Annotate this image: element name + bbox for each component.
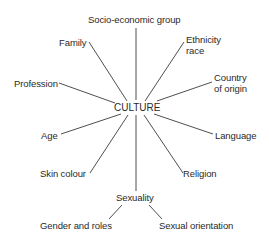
node-socio-economic-group: Socio-economic group — [88, 14, 181, 25]
edge-family — [89, 42, 127, 101]
node-profession: Profession — [14, 78, 58, 89]
edge-language — [154, 114, 213, 134]
edge-orientation — [149, 205, 162, 219]
node-sexuality: Sexuality — [116, 192, 154, 203]
edge-age — [61, 114, 121, 134]
node-gender-and-roles: Gender and roles — [40, 220, 112, 231]
node-ethnicity-race: Ethnicity race — [186, 34, 221, 56]
node-ethnicity-line1: Ethnicity — [186, 34, 221, 45]
node-family: Family — [59, 37, 86, 48]
node-sexual-orientation: Sexual orientation — [159, 220, 233, 231]
edge-country — [157, 82, 212, 101]
node-country-line1: Country — [214, 72, 247, 83]
edge-gender — [109, 205, 122, 219]
node-age: Age — [41, 130, 58, 141]
node-skin-colour: Skin colour — [40, 168, 86, 179]
node-religion: Religion — [183, 168, 217, 179]
edge-skin — [90, 115, 128, 173]
node-country-line2: of origin — [214, 83, 247, 94]
node-ethnicity-line2: race — [186, 45, 221, 56]
node-language: Language — [215, 130, 256, 141]
center-node-culture: CULTURE — [114, 102, 160, 113]
edge-profession — [59, 83, 115, 103]
edge-ethnicity — [145, 42, 184, 101]
connector-lines — [0, 0, 269, 244]
edge-religion — [144, 115, 183, 173]
node-country-of-origin: Country of origin — [214, 72, 247, 94]
